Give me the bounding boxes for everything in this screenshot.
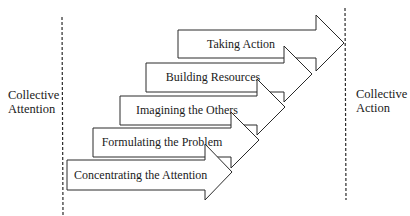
step-label: Taking Action [207,37,275,51]
right-label-line-2: Action [356,101,391,115]
step-label: Building Resources [166,70,261,84]
step-label: Concentrating the Attention [74,168,207,182]
left-boundary-dashed-line [62,17,63,215]
left-label-line-1: Collective [8,88,60,102]
staircase-arrow-diagram: Collective Attention Collective Action T… [0,0,410,216]
right-label-line-1: Collective [356,87,408,101]
left-label-line-2: Attention [8,102,56,116]
step-label: Imagining the Others [136,103,238,117]
right-boundary-dashed-line [345,8,346,200]
